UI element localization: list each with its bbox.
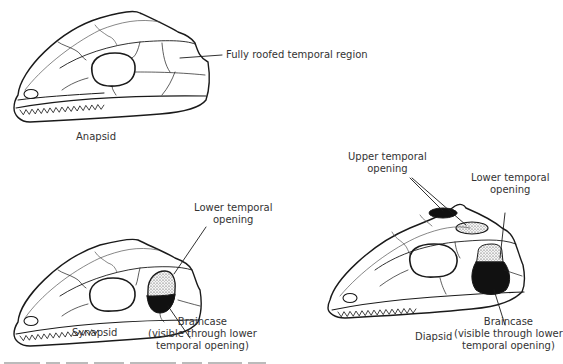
label-line: Upper temporal: [348, 151, 427, 163]
title-synapsid: Synapsid: [72, 327, 117, 339]
title-diapsid: Diapsid: [415, 331, 452, 343]
label-line: Lower temporal: [194, 202, 272, 214]
label-line: Braincase: [148, 316, 257, 328]
label-line: Lower temporal: [471, 172, 549, 184]
label-diapsid-upper-temporal-opening: Upper temporal opening: [348, 151, 427, 175]
diapsid-skull: [328, 178, 524, 325]
label-line: opening: [194, 214, 272, 226]
label-line: opening: [471, 184, 549, 196]
label-synapsid-braincase: Braincase (visible through lower tempora…: [148, 316, 257, 352]
figure-caption-clipped: [4, 359, 274, 364]
title-anapsid: Anapsid: [76, 131, 116, 143]
label-line: temporal opening): [148, 340, 257, 352]
label-fully-roofed-temporal-region: Fully roofed temporal region: [226, 49, 368, 61]
label-line: temporal opening): [454, 340, 563, 352]
label-diapsid-lower-temporal-opening: Lower temporal opening: [471, 172, 549, 196]
label-diapsid-braincase: Braincase (visible through lower tempora…: [454, 316, 563, 352]
label-line: (visible through lower: [454, 328, 563, 340]
anapsid-skull: [14, 12, 222, 122]
label-line: Braincase: [454, 316, 563, 328]
label-synapsid-lower-temporal-opening: Lower temporal opening: [194, 202, 272, 226]
label-line: opening: [348, 163, 427, 175]
label-line: (visible through lower: [148, 328, 257, 340]
